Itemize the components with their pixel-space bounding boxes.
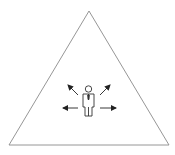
arrow-up-right-icon — [100, 85, 110, 95]
arrow-up-left-icon — [68, 85, 78, 95]
diagram-svg — [0, 0, 175, 155]
triangle-outline — [9, 11, 169, 145]
person-with-tie-icon — [83, 86, 94, 116]
diagram-canvas — [0, 0, 175, 155]
